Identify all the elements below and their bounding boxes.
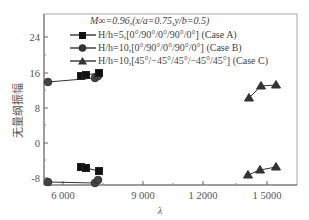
- legend-item-case-b: H/h=10,[0°/90°/0°/90°/0°] (Case B): [98, 42, 242, 54]
- y-axis-label: 无量纲振幅: [11, 83, 24, 138]
- y-ticks: 24 16 8 0 -8: [30, 32, 49, 184]
- legend-header: M∞=0.96,(x/a=0.75,y/b=0.5): [89, 15, 210, 27]
- circle-marker-icon: [79, 44, 87, 52]
- x-tick-label: 1 2000: [189, 190, 218, 201]
- x-ticks: 6 000 9 000 1 2000 1 5000: [51, 181, 281, 201]
- y-tick-label: 0: [35, 138, 40, 149]
- chart: 24 16 8 0 -8 6 000 9 000 1 2000 1 5000 λ…: [0, 0, 309, 220]
- legend-item-case-c: H/h=10,[45°/−45°/45°/−45°/45°] (Case C): [98, 55, 268, 67]
- y-tick-label: 8: [35, 103, 40, 114]
- legend: M∞=0.96,(x/a=0.75,y/b=0.5) H/h=5,[0°/90°…: [70, 15, 268, 67]
- x-tick-label: 1 5000: [253, 190, 282, 201]
- legend-item-case-a: H/h=5,[0°/90°/0°/90°/0°] (Case A): [98, 29, 237, 41]
- series-case-c: [244, 81, 281, 179]
- y-tick-label: -8: [31, 173, 40, 184]
- series-case-a: [78, 70, 103, 175]
- square-marker-icon: [79, 32, 86, 39]
- y-tick-label: 16: [30, 68, 41, 79]
- x-axis-label: λ: [157, 205, 163, 216]
- x-tick-label: 9 000: [131, 190, 155, 201]
- x-tick-label: 6 000: [51, 190, 75, 201]
- y-tick-label: 24: [30, 32, 41, 43]
